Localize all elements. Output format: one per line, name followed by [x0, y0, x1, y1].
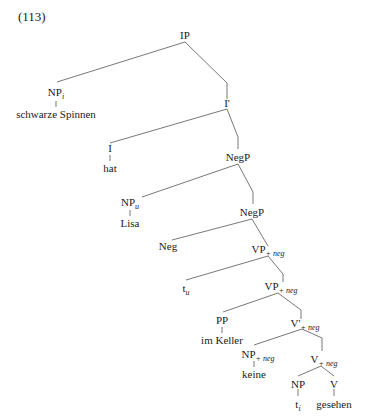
node-np: NP [291, 378, 305, 390]
word-t-i: ti [295, 398, 300, 410]
node-t-u: tu [182, 282, 189, 294]
node-np-neg: NP+ neg [241, 348, 274, 360]
node-negp-1: NegP [226, 151, 250, 163]
word-hat: hat [103, 162, 116, 174]
word-keine: keine [242, 368, 266, 380]
node-v: V [330, 378, 338, 390]
word-gesehen: gesehen [316, 398, 351, 410]
node-vp-neg-2: VP+ neg [264, 280, 297, 292]
word-lisa: Lisa [121, 217, 140, 229]
node-np-i: NPi [48, 86, 64, 98]
node-negp-2: NegP [240, 206, 264, 218]
node-vp-neg-1: VP+ neg [251, 243, 284, 255]
node-ip: IP [180, 29, 190, 41]
node-i: I [108, 142, 112, 154]
node-pp: PP [216, 314, 228, 326]
node-ibar: I' [224, 97, 230, 109]
word-im-keller: im Keller [201, 334, 243, 346]
node-vbar-neg: V'+ neg [291, 317, 320, 329]
node-v-neg: V+ neg [311, 353, 338, 365]
node-neg: Neg [159, 240, 177, 252]
node-np-u: NPu [121, 196, 139, 208]
word-schwarze-spinnen: schwarze Spinnen [16, 108, 96, 120]
